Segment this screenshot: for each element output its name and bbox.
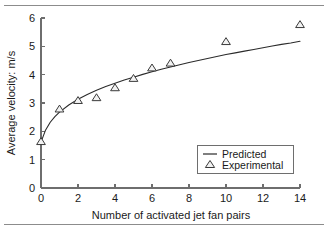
y-tick-label: 5 (29, 40, 35, 52)
x-tick-label: 6 (149, 192, 155, 204)
x-tick-label: 10 (220, 192, 232, 204)
series-experimental-markers (37, 21, 305, 145)
data-point-marker (296, 21, 305, 28)
data-point-marker (148, 64, 157, 71)
series-predicted-line (41, 41, 300, 142)
x-axis-title: Number of activated jet fan pairs (92, 209, 251, 221)
y-tick-label: 3 (29, 97, 35, 109)
data-point-marker (222, 38, 231, 45)
y-tick-label: 6 (29, 12, 35, 24)
x-tick-label: 12 (257, 192, 269, 204)
data-point-marker (55, 105, 64, 112)
y-axis-ticks: 0123456 (29, 12, 45, 194)
chart-canvas: 0123456 02468101214 Average velocity: m/… (0, 0, 328, 235)
data-point-marker (166, 59, 175, 66)
figure-container: 0123456 02468101214 Average velocity: m/… (0, 0, 328, 235)
x-tick-label: 2 (75, 192, 81, 204)
x-axis-ticks: 02468101214 (38, 184, 306, 204)
y-tick-label: 0 (29, 182, 35, 194)
x-tick-label: 14 (294, 192, 306, 204)
x-tick-label: 0 (38, 192, 44, 204)
y-axis-title: Average velocity: m/s (5, 50, 17, 155)
y-tick-label: 2 (29, 125, 35, 137)
data-point-marker (37, 138, 46, 145)
chart-legend: Predicted Experimental (197, 145, 293, 173)
y-tick-label: 4 (29, 69, 35, 81)
x-tick-label: 8 (186, 192, 192, 204)
x-tick-label: 4 (112, 192, 118, 204)
data-point-marker (92, 94, 101, 101)
y-tick-label: 1 (29, 154, 35, 166)
legend-label-experimental: Experimental (222, 159, 283, 171)
